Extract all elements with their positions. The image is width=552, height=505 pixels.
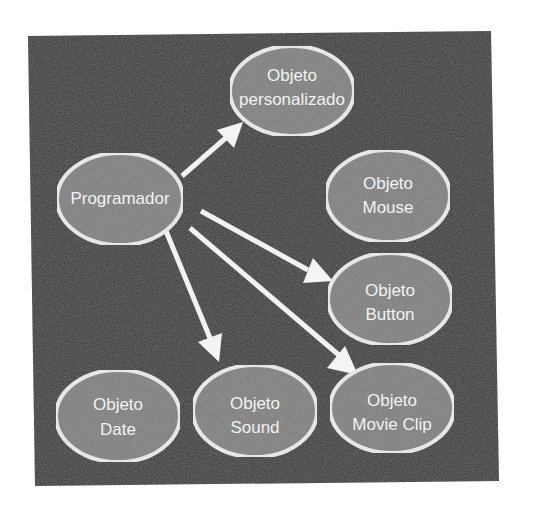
node-objeto-sound: Objeto Sound	[193, 365, 317, 457]
node-label-line-1: Objeto	[365, 281, 415, 300]
diagram-canvas: Objeto personalizado Programador Objeto …	[0, 0, 552, 505]
node-objeto-movie-clip: Objeto Movie Clip	[330, 363, 454, 453]
node-objeto-mouse: Objeto Mouse	[326, 150, 450, 242]
node-label-line-2: Sound	[230, 418, 279, 437]
node-label-line-1: Objeto	[230, 394, 280, 413]
node-label-line-1: Objeto	[93, 395, 143, 414]
node-label-line-2: Mouse	[362, 198, 413, 217]
node-label-line-1: Programador	[70, 189, 170, 208]
node-label-line-2: Date	[100, 420, 136, 439]
node-objeto-date: Objeto Date	[56, 370, 180, 462]
node-objeto-button: Objeto Button	[328, 253, 452, 345]
node-objeto-personalizado: Objeto personalizado	[230, 46, 354, 136]
node-programador: Programador	[57, 153, 183, 245]
diagram-svg: Objeto personalizado Programador Objeto …	[0, 0, 552, 505]
node-label-line-2: Button	[365, 305, 414, 324]
node-label-line-2: personalizado	[239, 90, 345, 109]
node-label-line-2: Movie Clip	[352, 415, 431, 434]
node-label-line-1: Objeto	[363, 174, 413, 193]
node-label-line-1: Objeto	[267, 66, 317, 85]
node-label-line-1: Objeto	[367, 391, 417, 410]
